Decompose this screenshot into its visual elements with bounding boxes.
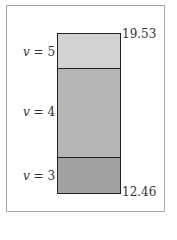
level-v4-label: v = 4 (23, 106, 55, 118)
level-v5-label: v = 5 (23, 46, 55, 58)
level-v4-box (57, 68, 121, 158)
level-v3-label: v = 3 (23, 170, 55, 182)
top-value-label: 19.53 (122, 28, 156, 40)
level-v5-box (57, 33, 121, 69)
level-v3-box (57, 157, 121, 194)
bottom-value-label: 12.46 (122, 186, 156, 198)
